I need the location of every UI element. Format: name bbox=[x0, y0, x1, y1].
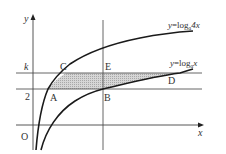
curve-log-4x-label: y=loga4x bbox=[167, 20, 200, 31]
y-axis-arrow-icon bbox=[31, 14, 36, 20]
point-E-label: E bbox=[105, 61, 111, 72]
two-label: 2 bbox=[25, 91, 30, 102]
point-D-label: D bbox=[168, 75, 175, 86]
point-A-label: A bbox=[50, 92, 58, 103]
curve-log-x-label: y=logax bbox=[169, 58, 197, 69]
k-label: k bbox=[24, 61, 29, 72]
origin-label: O bbox=[21, 131, 28, 142]
log-graph-diagram: y x O k 2 C E A B D y=loga4x y=logax bbox=[0, 0, 226, 154]
curve-log-4x bbox=[36, 31, 193, 150]
x-axis-label: x bbox=[197, 127, 203, 138]
y-axis-label: y bbox=[23, 13, 29, 24]
point-C-label: C bbox=[60, 61, 67, 72]
point-B-label: B bbox=[104, 92, 111, 103]
diagram-canvas: y x O k 2 C E A B D y=loga4x y=logax bbox=[0, 0, 226, 154]
